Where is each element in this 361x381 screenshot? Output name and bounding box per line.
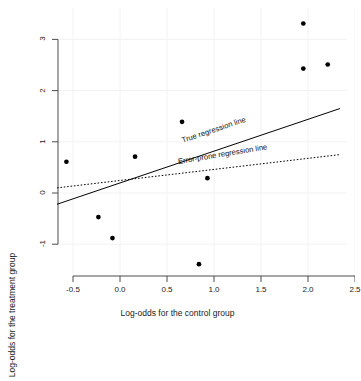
x-tick-label: 2.0	[302, 285, 313, 294]
y-tick-label: 3	[38, 33, 47, 45]
x-axis-title: Log-odds for the control group	[0, 308, 355, 318]
data-points	[64, 21, 330, 266]
y-tick-label: 1	[38, 135, 47, 147]
x-tick-label: 0.5	[161, 285, 172, 294]
y-axis-title: Log-odds for the treatment group	[6, 150, 18, 381]
x-tick-label: 2.5	[349, 285, 360, 294]
gridlines	[57, 8, 355, 277]
x-tick-label: 1.5	[255, 285, 266, 294]
y-tick-label: -1	[38, 238, 47, 250]
y-tick-label: 0	[38, 187, 47, 199]
y-tick-label: 2	[38, 84, 47, 96]
x-tick-label: 1.0	[208, 285, 219, 294]
x-tick-label: -0.5	[66, 285, 80, 294]
x-tick-label: 0.0	[114, 285, 125, 294]
